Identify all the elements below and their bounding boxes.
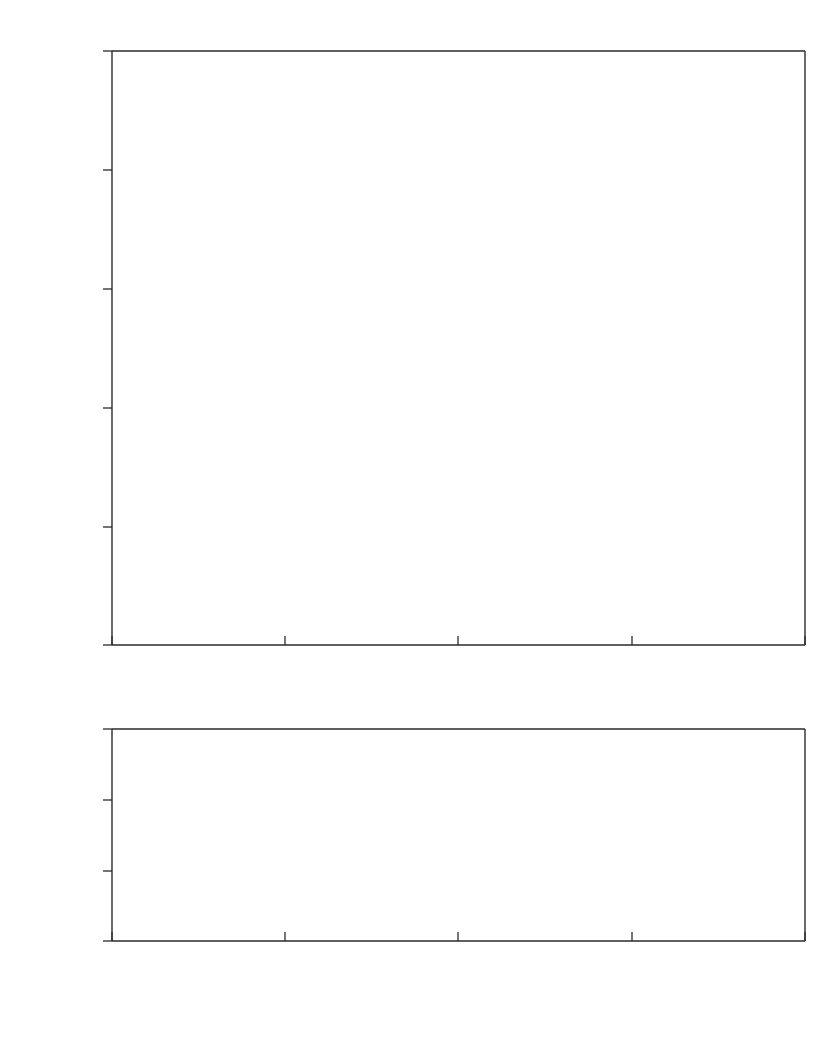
deviator-stress-chart: [0, 0, 840, 710]
deviator-stress-panel: [0, 0, 840, 710]
volumetric-strain-panel: [0, 710, 840, 1055]
bottom-y-ticks: [103, 729, 112, 941]
top-chart-axes: [112, 51, 805, 645]
bottom-chart-axes: [112, 729, 805, 941]
volumetric-strain-chart: [0, 710, 840, 1055]
top-x-ticks: [112, 636, 805, 645]
bottom-x-ticks: [112, 932, 805, 941]
top-y-ticks: [103, 51, 112, 645]
figure-container: [0, 0, 840, 1055]
